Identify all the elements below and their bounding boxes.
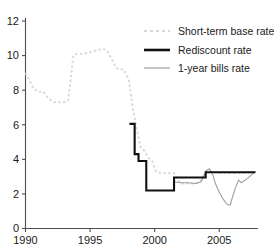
y-tick-label-8: 8 — [13, 84, 19, 96]
series-rediscount-rate — [129, 124, 255, 191]
chart-container: 024681012 1990199520002005 Short-term ba… — [0, 0, 279, 250]
x-tick-label-1990: 1990 — [13, 234, 37, 246]
chart-plot-area: 024681012 1990199520002005 Short-term ba… — [0, 0, 279, 250]
y-tick-label-2: 2 — [13, 188, 19, 200]
y-tick-label-0: 0 — [13, 222, 19, 234]
x-tick-label-2000: 2000 — [142, 234, 166, 246]
legend-label-short-term-base-rate: Short-term base rate — [178, 25, 274, 37]
y-axis-tick-labels: 024681012 — [7, 15, 19, 235]
y-tick-label-10: 10 — [7, 49, 19, 61]
y-axis: 024681012 — [7, 15, 26, 235]
legend-label-rediscount-rate: Rediscount rate — [178, 44, 252, 56]
y-tick-label-12: 12 — [7, 15, 19, 27]
y-tick-label-6: 6 — [13, 119, 19, 131]
legend-label-1-year-bills-rate: 1-year bills rate — [178, 62, 250, 74]
series-1-year-bills-rate — [174, 169, 255, 205]
x-tick-label-1995: 1995 — [78, 234, 102, 246]
chart-legend: Short-term base rate Rediscount rate 1-y… — [144, 25, 274, 74]
x-axis-tick-labels: 1990199520002005 — [13, 234, 231, 246]
x-tick-label-2005: 2005 — [207, 234, 231, 246]
y-tick-label-4: 4 — [13, 153, 19, 165]
x-axis: 1990199520002005 — [13, 229, 258, 247]
